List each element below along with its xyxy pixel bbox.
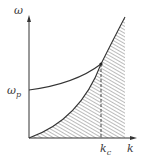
y-axis-label: ω <box>14 5 23 16</box>
omega-p-label: ωp <box>7 85 21 99</box>
kc-label: kc <box>100 143 111 157</box>
hatched-region <box>29 10 129 140</box>
y-axis-arrow-icon <box>27 15 31 22</box>
plot-canvas <box>0 0 141 162</box>
x-axis-label: k <box>127 143 134 154</box>
x-axis-arrow-icon <box>130 136 137 140</box>
dispersion-figure: ω ωp kc k <box>0 0 141 162</box>
